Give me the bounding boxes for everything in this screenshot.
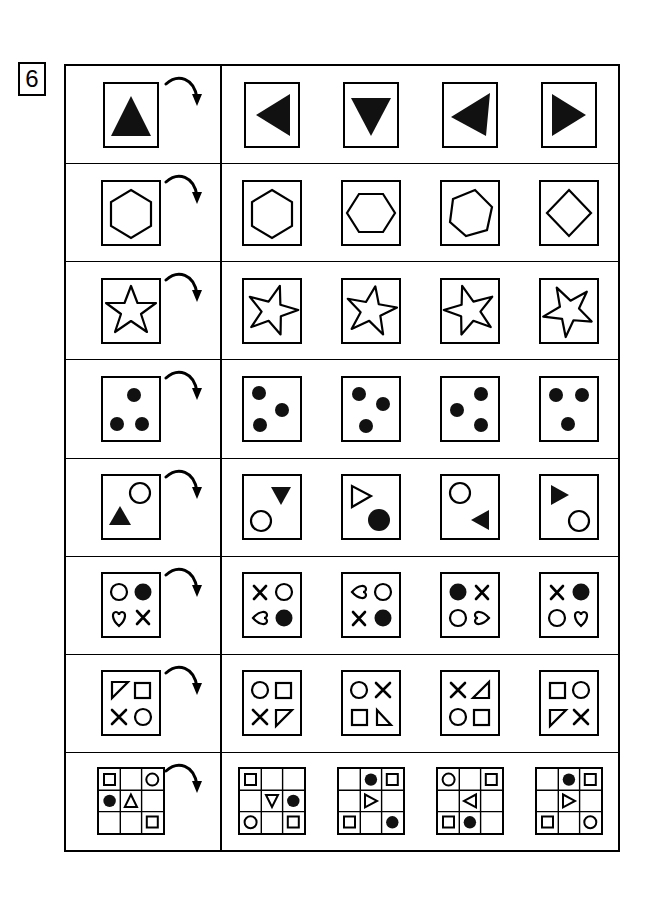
option-tile[interactable]: [442, 82, 498, 148]
question-tile: [101, 670, 161, 736]
option-tile[interactable]: [242, 278, 302, 344]
option-tile[interactable]: [436, 767, 504, 835]
option-cell-d[interactable]: [519, 459, 618, 556]
option-cell-d[interactable]: [519, 262, 618, 359]
option-tile[interactable]: [539, 180, 599, 246]
option-cell-d[interactable]: [519, 753, 618, 850]
option-cell-c[interactable]: [420, 557, 519, 654]
option-cell-a[interactable]: [222, 459, 321, 556]
option-tile[interactable]: [341, 180, 401, 246]
question-number-badge: 6: [18, 62, 46, 96]
option-tile[interactable]: [541, 82, 597, 148]
question-cell: [66, 655, 222, 752]
option-tile[interactable]: [539, 376, 599, 442]
option-tile[interactable]: [242, 474, 302, 540]
matrix-row: [66, 66, 618, 164]
option-tile[interactable]: [440, 180, 500, 246]
question-cell: [66, 360, 222, 457]
option-cell-b[interactable]: [321, 753, 420, 850]
rotation-arrow-icon: [162, 565, 202, 601]
option-tile[interactable]: [440, 670, 500, 736]
option-cell-a[interactable]: [222, 557, 321, 654]
option-tile[interactable]: [440, 572, 500, 638]
question-tile: [101, 474, 161, 540]
question-tile: [101, 180, 161, 246]
option-cell-c[interactable]: [420, 655, 519, 752]
option-cell-a[interactable]: [222, 360, 321, 457]
option-tile[interactable]: [337, 767, 405, 835]
question-tile: [101, 376, 161, 442]
matrix-row: [66, 459, 618, 557]
option-cell-a[interactable]: [222, 753, 321, 850]
option-cell-b[interactable]: [321, 459, 420, 556]
option-tile[interactable]: [343, 82, 399, 148]
option-cell-c[interactable]: [420, 262, 519, 359]
option-tile[interactable]: [535, 767, 603, 835]
option-tile[interactable]: [341, 670, 401, 736]
option-tile[interactable]: [242, 670, 302, 736]
rotation-arrow-icon: [162, 663, 202, 699]
option-cell-d[interactable]: [519, 360, 618, 457]
question-cell: [66, 557, 222, 654]
rotation-arrow-icon: [162, 270, 202, 306]
rotation-arrow-icon: [162, 467, 202, 503]
worksheet-page: 6: [0, 0, 648, 900]
question-cell: [66, 164, 222, 261]
option-tile[interactable]: [440, 278, 500, 344]
matrix-row: [66, 753, 618, 850]
question-tile: [103, 82, 159, 148]
option-cell-c[interactable]: [420, 360, 519, 457]
matrix-row: [66, 557, 618, 655]
option-tile[interactable]: [539, 572, 599, 638]
option-cell-d[interactable]: [519, 66, 618, 163]
rotation-arrow-icon: [162, 761, 202, 797]
matrix-table: [64, 64, 620, 852]
matrix-row: [66, 655, 618, 753]
option-cell-a[interactable]: [222, 655, 321, 752]
option-tile[interactable]: [242, 572, 302, 638]
question-cell: [66, 459, 222, 556]
option-cell-b[interactable]: [321, 655, 420, 752]
option-cell-d[interactable]: [519, 557, 618, 654]
option-tile[interactable]: [539, 474, 599, 540]
question-tile: [101, 278, 161, 344]
option-tile[interactable]: [440, 376, 500, 442]
option-tile[interactable]: [244, 82, 300, 148]
option-cell-c[interactable]: [420, 66, 519, 163]
option-cell-a[interactable]: [222, 262, 321, 359]
option-tile[interactable]: [242, 180, 302, 246]
option-cell-b[interactable]: [321, 360, 420, 457]
question-tile: [97, 767, 165, 835]
rotation-arrow-icon: [162, 172, 202, 208]
option-tile[interactable]: [341, 376, 401, 442]
option-cell-b[interactable]: [321, 66, 420, 163]
matrix-row: [66, 360, 618, 458]
option-tile[interactable]: [341, 572, 401, 638]
option-tile[interactable]: [242, 376, 302, 442]
matrix-row: [66, 164, 618, 262]
option-cell-a[interactable]: [222, 164, 321, 261]
question-cell: [66, 262, 222, 359]
option-cell-b[interactable]: [321, 557, 420, 654]
option-cell-d[interactable]: [519, 164, 618, 261]
option-tile[interactable]: [539, 278, 599, 344]
option-cell-b[interactable]: [321, 262, 420, 359]
option-tile[interactable]: [341, 474, 401, 540]
option-cell-c[interactable]: [420, 164, 519, 261]
option-cell-b[interactable]: [321, 164, 420, 261]
rotation-arrow-icon: [162, 368, 202, 404]
option-cell-c[interactable]: [420, 753, 519, 850]
matrix-row: [66, 262, 618, 360]
question-tile: [101, 572, 161, 638]
option-tile[interactable]: [539, 670, 599, 736]
question-cell: [66, 66, 222, 163]
option-tile[interactable]: [238, 767, 306, 835]
question-cell: [66, 753, 222, 850]
option-cell-c[interactable]: [420, 459, 519, 556]
rotation-arrow-icon: [162, 74, 202, 110]
option-cell-d[interactable]: [519, 655, 618, 752]
option-tile[interactable]: [440, 474, 500, 540]
option-cell-a[interactable]: [222, 66, 321, 163]
option-tile[interactable]: [341, 278, 401, 344]
